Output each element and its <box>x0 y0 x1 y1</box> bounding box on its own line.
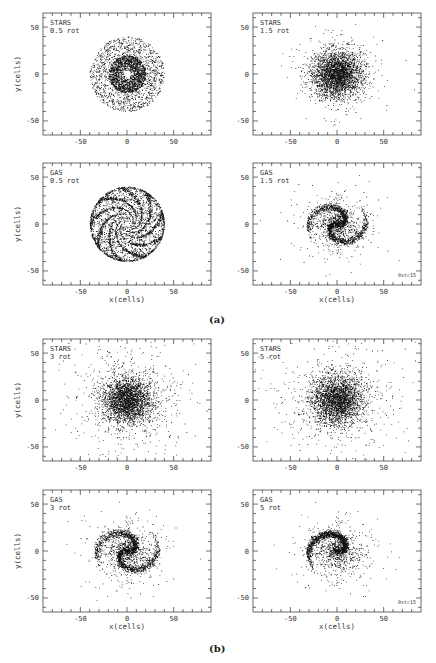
x-tick-label: -50 <box>284 615 297 623</box>
x-tick-label: 50 <box>379 615 387 623</box>
caption-b: (b) <box>209 643 225 654</box>
component-label: GAS <box>260 496 273 504</box>
y-tick-label: -50 <box>236 594 249 602</box>
y-tick-label: 50 <box>241 501 249 509</box>
x-axis-label: x(cells) <box>319 622 355 631</box>
data-points <box>274 502 400 612</box>
scatter-panel-gas-5-rot: -50050-50050x(cells)GAS5 rot0stc15 <box>0 0 436 663</box>
run-id-label: 0stc15 <box>398 599 416 605</box>
y-tick-label: 0 <box>245 548 249 556</box>
time-label: 5 rot <box>260 504 281 512</box>
caption-a: (a) <box>209 314 225 325</box>
